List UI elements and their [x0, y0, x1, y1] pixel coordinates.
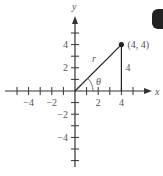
y-axis-label: y [71, 1, 77, 12]
coordinate-plane: −4−22442−2−4 x y (4, 4) r θ 4 [0, 0, 163, 176]
x-tick-label: −4 [23, 97, 34, 108]
x-axis-label: x [154, 86, 160, 97]
y-tick-label: 4 [63, 39, 68, 50]
y-tick-label: 2 [63, 62, 68, 73]
point-label: (4, 4) [127, 39, 149, 51]
point-marker [119, 42, 124, 47]
x-axis-arrow-icon [144, 88, 152, 94]
angle-arc [88, 78, 93, 91]
x-tick-label: 2 [96, 97, 101, 108]
y-tick-label: −2 [57, 109, 68, 120]
radius-label: r [92, 53, 96, 64]
y-tick-label: −4 [57, 132, 68, 143]
vertical-leg-label: 4 [125, 62, 130, 73]
angle-theta-label: θ [96, 76, 101, 87]
x-tick-label: −2 [46, 97, 57, 108]
x-tick-label: 4 [119, 97, 124, 108]
y-axis-arrow-icon [72, 16, 78, 24]
